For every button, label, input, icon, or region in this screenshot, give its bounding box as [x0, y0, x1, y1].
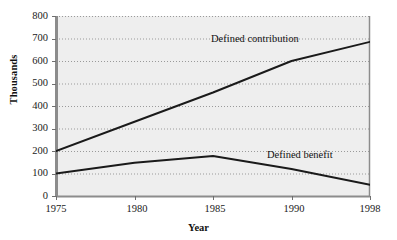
chart-figure: Thousands Year 800 700 600 500 400 300 2…	[0, 0, 397, 240]
series-annotation-defined-contribution: Defined contribution	[211, 33, 299, 44]
y-tick-label-300: 300	[14, 122, 48, 133]
y-tick-label-600: 600	[14, 55, 48, 66]
y-tick-label-800: 800	[14, 10, 48, 21]
x-tick-label-1980: 1980	[114, 203, 160, 214]
y-tick-label-500: 500	[14, 77, 48, 88]
y-tick-label-700: 700	[14, 32, 48, 43]
y-tick-label-0: 0	[14, 190, 48, 201]
series-annotation-defined-benefit: Defined benefit	[267, 149, 333, 160]
x-tick-label-1975: 1975	[33, 203, 79, 214]
x-tick-label-1985: 1985	[192, 203, 238, 214]
x-tick-label-1998: 1998	[347, 203, 393, 214]
x-tick-label-1990: 1990	[271, 203, 317, 214]
y-tick-label-200: 200	[14, 145, 48, 156]
y-tick-label-100: 100	[14, 167, 48, 178]
x-axis-title: Year	[0, 222, 397, 233]
y-tick-label-400: 400	[14, 100, 48, 111]
